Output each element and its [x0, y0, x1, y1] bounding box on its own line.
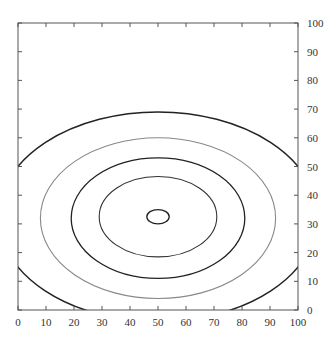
contour-level-3 — [71, 158, 245, 279]
x-tick-label: 40 — [125, 316, 137, 328]
y-tick-label: 30 — [307, 218, 319, 230]
x-tick-label: 80 — [237, 316, 249, 328]
contour-level-1 — [147, 210, 169, 224]
y-tick-label: 50 — [307, 161, 319, 173]
y-tick-label: 0 — [307, 304, 313, 316]
x-tick-label: 90 — [265, 316, 277, 328]
plot-frame — [18, 23, 298, 310]
y-tick-label: 100 — [307, 17, 324, 29]
chart-canvas: 0102030405060708090100 01020304050607080… — [0, 0, 336, 339]
x-tick-label: 70 — [209, 316, 221, 328]
y-tick-label: 10 — [307, 275, 319, 287]
y-tick-label: 90 — [307, 46, 319, 58]
contour-lines — [0, 112, 318, 322]
x-axis-labels: 0102030405060708090100 — [15, 316, 307, 328]
x-tick-label: 10 — [41, 316, 53, 328]
y-tick-label: 40 — [307, 189, 319, 201]
y-axis-labels: 0102030405060708090100 — [307, 17, 324, 316]
contour-level-4 — [40, 138, 275, 299]
x-tick-label: 30 — [97, 316, 109, 328]
x-tick-label: 60 — [181, 316, 193, 328]
x-tick-label: 20 — [69, 316, 81, 328]
y-tick-label: 80 — [307, 74, 319, 86]
x-tick-label: 50 — [153, 316, 165, 328]
contour-level-2 — [99, 177, 217, 257]
x-tick-label: 0 — [15, 316, 21, 328]
y-tick-label: 70 — [307, 103, 319, 115]
contour-chart: 0102030405060708090100 01020304050607080… — [0, 0, 336, 339]
contour-level-5 — [0, 112, 318, 322]
x-tick-label: 100 — [290, 316, 307, 328]
y-tick-label: 20 — [307, 247, 319, 259]
y-tick-label: 60 — [307, 132, 319, 144]
axis-ticks — [18, 23, 298, 310]
